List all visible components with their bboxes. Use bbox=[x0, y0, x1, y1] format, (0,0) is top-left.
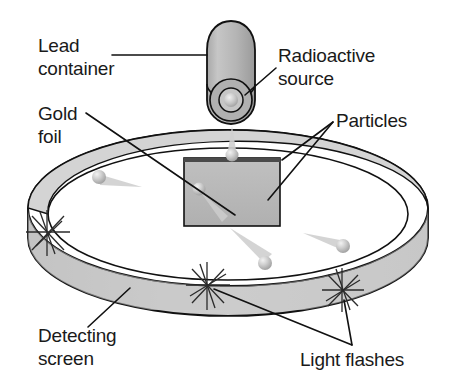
label-light-flashes-line1: Light flashes bbox=[300, 349, 404, 370]
label-detecting-screen-line2: screen bbox=[38, 348, 94, 369]
label-particles-line1: Particles bbox=[336, 110, 407, 131]
label-radioactive-source-line2: source bbox=[278, 68, 334, 89]
rutherford-experiment-diagram: Lead container Radioactive source Gold f… bbox=[0, 0, 449, 383]
label-gold-foil-line1: Gold bbox=[38, 103, 77, 124]
radioactive-source bbox=[210, 79, 252, 121]
particle-head bbox=[258, 256, 272, 270]
particle-head bbox=[226, 149, 239, 162]
diagram-canvas: Lead container Radioactive source Gold f… bbox=[0, 0, 449, 383]
label-gold-foil: Gold foil bbox=[38, 103, 77, 147]
label-particles: Particles bbox=[336, 110, 407, 131]
label-detecting-screen: Detecting screen bbox=[38, 325, 116, 369]
label-lead-container: Lead container bbox=[38, 35, 115, 79]
leader-light-flashes-b bbox=[344, 300, 352, 345]
label-lead-container-line2: container bbox=[38, 58, 115, 79]
label-lead-container-line1: Lead bbox=[38, 35, 79, 56]
label-radioactive-source: Radioactive source bbox=[278, 45, 375, 89]
label-detecting-screen-line1: Detecting bbox=[38, 325, 116, 346]
particle-head bbox=[336, 239, 350, 253]
label-radioactive-source-line1: Radioactive bbox=[278, 45, 375, 66]
particle-head bbox=[92, 170, 106, 184]
label-light-flashes: Light flashes bbox=[300, 349, 404, 370]
label-gold-foil-line2: foil bbox=[38, 126, 62, 147]
source-core bbox=[224, 93, 238, 107]
